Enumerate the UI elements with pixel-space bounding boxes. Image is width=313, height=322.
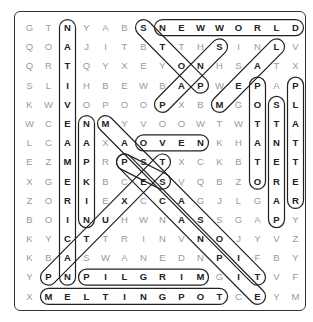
grid-cell[interactable]: S	[267, 95, 286, 114]
grid-cell[interactable]: E	[248, 287, 267, 306]
letter-grid[interactable]: GTNYABSNEWWORLDQOAJITBTTHSINLVQRTQYXEYON…	[20, 18, 305, 303]
grid-cell[interactable]: P	[210, 248, 229, 267]
grid-cell[interactable]: A	[58, 133, 77, 152]
grid-cell[interactable]: E	[267, 152, 286, 171]
grid-cell[interactable]: A	[172, 210, 191, 229]
grid-cell[interactable]: P	[248, 76, 267, 95]
grid-cell[interactable]: C	[39, 133, 58, 152]
grid-cell[interactable]: X	[96, 133, 115, 152]
grid-cell[interactable]: T	[248, 114, 267, 133]
grid-cell[interactable]: A	[267, 191, 286, 210]
grid-cell[interactable]: C	[229, 287, 248, 306]
grid-cell[interactable]: B	[191, 95, 210, 114]
grid-cell[interactable]: T	[267, 56, 286, 75]
grid-cell[interactable]: X	[172, 95, 191, 114]
grid-cell[interactable]: N	[267, 133, 286, 152]
grid-cell[interactable]: G	[134, 267, 153, 286]
grid-cell[interactable]: M	[39, 287, 58, 306]
grid-cell[interactable]: L	[267, 37, 286, 56]
grid-cell[interactable]: N	[153, 210, 172, 229]
grid-cell[interactable]: Q	[77, 56, 96, 75]
grid-cell[interactable]: A	[58, 37, 77, 56]
grid-cell[interactable]: X	[20, 172, 39, 191]
grid-cell[interactable]: S	[210, 37, 229, 56]
grid-cell[interactable]: H	[191, 37, 210, 56]
grid-cell[interactable]: G	[39, 172, 58, 191]
grid-cell[interactable]: T	[172, 37, 191, 56]
grid-cell[interactable]: G	[210, 267, 229, 286]
grid-cell[interactable]: R	[286, 191, 305, 210]
grid-cell[interactable]: I	[96, 37, 115, 56]
grid-cell[interactable]: Q	[191, 172, 210, 191]
grid-cell[interactable]: P	[39, 267, 58, 286]
grid-cell[interactable]: P	[191, 76, 210, 95]
grid-cell[interactable]: T	[248, 152, 267, 171]
grid-cell[interactable]: Q	[20, 56, 39, 75]
grid-cell[interactable]: A	[248, 56, 267, 75]
grid-cell[interactable]: M	[96, 114, 115, 133]
grid-cell[interactable]: T	[115, 37, 134, 56]
grid-cell[interactable]: N	[191, 229, 210, 248]
grid-cell[interactable]: O	[172, 114, 191, 133]
grid-cell[interactable]: N	[58, 267, 77, 286]
grid-cell[interactable]: V	[172, 172, 191, 191]
grid-cell[interactable]: W	[210, 76, 229, 95]
grid-cell[interactable]: C	[115, 172, 134, 191]
grid-cell[interactable]: W	[39, 95, 58, 114]
grid-cell[interactable]: T	[248, 267, 267, 286]
grid-cell[interactable]: J	[229, 229, 248, 248]
grid-cell[interactable]: O	[134, 133, 153, 152]
grid-cell[interactable]: N	[153, 18, 172, 37]
grid-cell[interactable]: N	[134, 248, 153, 267]
grid-cell[interactable]: E	[58, 172, 77, 191]
grid-cell[interactable]: E	[172, 18, 191, 37]
grid-cell[interactable]: S	[20, 76, 39, 95]
grid-cell[interactable]: X	[115, 191, 134, 210]
grid-cell[interactable]: X	[286, 56, 305, 75]
grid-cell[interactable]: N	[77, 210, 96, 229]
grid-cell[interactable]: Y	[115, 114, 134, 133]
grid-cell[interactable]: V	[286, 37, 305, 56]
grid-cell[interactable]: N	[248, 37, 267, 56]
grid-cell[interactable]: K	[210, 133, 229, 152]
grid-cell[interactable]: K	[210, 152, 229, 171]
grid-cell[interactable]: Y	[248, 229, 267, 248]
grid-cell[interactable]: S	[210, 210, 229, 229]
grid-cell[interactable]: W	[134, 210, 153, 229]
grid-cell[interactable]: L	[39, 76, 58, 95]
grid-cell[interactable]: B	[39, 248, 58, 267]
grid-cell[interactable]: P	[77, 267, 96, 286]
grid-cell[interactable]: I	[96, 267, 115, 286]
grid-cell[interactable]: A	[58, 248, 77, 267]
grid-cell[interactable]: Z	[229, 172, 248, 191]
grid-cell[interactable]: O	[191, 287, 210, 306]
grid-cell[interactable]: T	[96, 287, 115, 306]
grid-cell[interactable]: A	[248, 210, 267, 229]
grid-cell[interactable]: O	[77, 95, 96, 114]
grid-cell[interactable]: P	[96, 95, 115, 114]
grid-cell[interactable]: R	[58, 191, 77, 210]
grid-cell[interactable]: A	[172, 76, 191, 95]
grid-cell[interactable]: N	[58, 18, 77, 37]
grid-cell[interactable]: I	[229, 248, 248, 267]
grid-cell[interactable]: N	[191, 133, 210, 152]
grid-cell[interactable]: Z	[39, 152, 58, 171]
grid-cell[interactable]: B	[229, 152, 248, 171]
grid-cell[interactable]: L	[77, 287, 96, 306]
grid-cell[interactable]: Z	[286, 229, 305, 248]
grid-cell[interactable]: T	[210, 287, 229, 306]
grid-cell[interactable]: Y	[39, 229, 58, 248]
grid-cell[interactable]: T	[286, 152, 305, 171]
grid-cell[interactable]: L	[20, 133, 39, 152]
grid-cell[interactable]: B	[210, 172, 229, 191]
grid-cell[interactable]: A	[172, 191, 191, 210]
grid-cell[interactable]: B	[267, 248, 286, 267]
grid-cell[interactable]: A	[96, 18, 115, 37]
grid-cell[interactable]: R	[39, 56, 58, 75]
grid-cell[interactable]: Y	[96, 56, 115, 75]
grid-cell[interactable]: J	[210, 191, 229, 210]
grid-cell[interactable]: L	[229, 191, 248, 210]
grid-cell[interactable]: R	[267, 172, 286, 191]
grid-cell[interactable]: I	[134, 229, 153, 248]
grid-cell[interactable]: I	[77, 191, 96, 210]
